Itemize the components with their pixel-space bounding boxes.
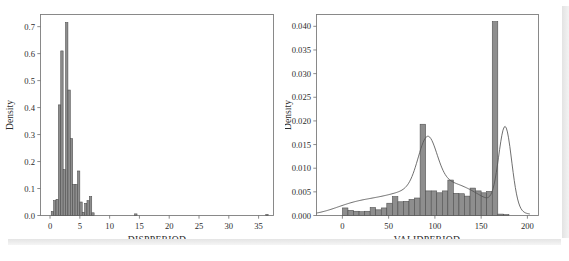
histogram-bar bbox=[431, 191, 437, 216]
y-tick-label: 0.035 bbox=[292, 45, 311, 55]
y-tick-label: 0.020 bbox=[292, 116, 311, 126]
histogram-bar bbox=[82, 212, 84, 215]
histogram-bar bbox=[453, 193, 459, 215]
histogram-bar bbox=[387, 203, 393, 215]
histogram-bar bbox=[70, 139, 72, 216]
chart-panel-dispperiod: 0.00.10.20.30.40.50.60.7 05101520253035 … bbox=[0, 0, 284, 261]
histogram-bar bbox=[54, 201, 56, 216]
y-tick-label: 0.000 bbox=[292, 211, 311, 221]
histogram-bar bbox=[381, 208, 387, 216]
histogram-bar bbox=[442, 191, 448, 216]
y-tick-label: 0.005 bbox=[292, 187, 311, 197]
histogram-bar bbox=[420, 124, 426, 215]
y-tick-label: 0.4 bbox=[24, 103, 35, 113]
histogram-bar bbox=[415, 198, 421, 215]
histogram-bar bbox=[66, 23, 68, 216]
histogram-bar bbox=[56, 199, 58, 215]
y-axis-title-left: Density bbox=[4, 100, 15, 130]
histogram-bar bbox=[51, 211, 53, 215]
histogram-bar bbox=[63, 170, 65, 216]
x-tick-label: 20 bbox=[165, 221, 174, 231]
histogram-bar bbox=[465, 196, 471, 215]
histogram-bar bbox=[68, 90, 70, 215]
histogram-bar bbox=[342, 208, 348, 216]
histogram-bar bbox=[448, 180, 454, 215]
x-axis-tick-labels-right: 050100150200 bbox=[340, 221, 534, 231]
histogram-bar bbox=[73, 184, 75, 215]
dispperiod-plot: 0.00.10.20.30.40.50.60.7 05101520253035 … bbox=[0, 0, 284, 261]
histogram-bars-dispperiod bbox=[51, 23, 268, 216]
y-tick-label: 0.1 bbox=[24, 184, 35, 194]
histogram-bar bbox=[266, 214, 268, 215]
x-axis-ticks-left bbox=[50, 216, 259, 219]
x-tick-label: 200 bbox=[521, 221, 534, 231]
x-tick-label: 100 bbox=[428, 221, 441, 231]
x-tick-label: 0 bbox=[340, 221, 344, 231]
histogram-bar bbox=[403, 201, 409, 215]
y-tick-label: 0.5 bbox=[24, 76, 35, 86]
x-axis-ticks-right bbox=[342, 216, 527, 219]
y-axis-ticks-right bbox=[313, 26, 316, 215]
x-tick-label: 35 bbox=[254, 221, 263, 231]
validperiod-plot: 0.0000.0050.0100.0150.0200.0250.0300.035… bbox=[285, 0, 569, 261]
y-tick-label: 0.2 bbox=[24, 157, 35, 167]
histogram-bar bbox=[437, 193, 443, 216]
y-axis-tick-labels-right: 0.0000.0050.0100.0150.0200.0250.0300.035… bbox=[292, 21, 311, 220]
y-axis-tick-labels-left: 0.00.10.20.30.40.50.60.7 bbox=[24, 22, 35, 221]
y-tick-label: 0.015 bbox=[292, 140, 311, 150]
histogram-bar bbox=[492, 22, 498, 216]
x-tick-label: 5 bbox=[78, 221, 82, 231]
x-tick-label: 30 bbox=[225, 221, 234, 231]
figure-right-shadow bbox=[562, 6, 569, 238]
histogram-bar bbox=[376, 210, 382, 216]
y-tick-label: 0.040 bbox=[292, 21, 311, 31]
histogram-bar bbox=[354, 211, 360, 215]
x-axis-tick-labels-left: 05101520253035 bbox=[48, 221, 263, 231]
histogram-bars-validperiod bbox=[342, 22, 509, 216]
x-tick-label: 25 bbox=[195, 221, 204, 231]
histogram-bar bbox=[61, 51, 63, 216]
histogram-bar bbox=[348, 210, 354, 215]
y-tick-label: 0.6 bbox=[24, 49, 35, 59]
figure-container: 0.00.10.20.30.40.50.60.7 05101520253035 … bbox=[0, 0, 569, 261]
y-tick-label: 0.7 bbox=[24, 22, 35, 32]
histogram-bar bbox=[85, 203, 87, 215]
histogram-bar bbox=[80, 202, 82, 215]
histogram-bar bbox=[75, 184, 77, 215]
y-tick-label: 0.0 bbox=[24, 211, 35, 221]
histogram-bar bbox=[77, 171, 79, 216]
y-axis-title-right: Density bbox=[285, 100, 293, 130]
histogram-bar bbox=[398, 202, 404, 216]
y-tick-label: 0.030 bbox=[292, 69, 311, 79]
y-tick-label: 0.3 bbox=[24, 130, 35, 140]
x-tick-label: 15 bbox=[135, 221, 144, 231]
histogram-bar bbox=[487, 191, 493, 215]
histogram-bar bbox=[359, 212, 365, 216]
histogram-bar bbox=[87, 201, 89, 216]
histogram-bar bbox=[392, 197, 398, 216]
x-tick-label: 0 bbox=[48, 221, 52, 231]
histogram-bar bbox=[58, 105, 60, 216]
histogram-bar bbox=[498, 214, 504, 215]
y-tick-label: 0.010 bbox=[292, 163, 311, 173]
plot-frame bbox=[317, 15, 539, 216]
histogram-bar bbox=[89, 197, 91, 216]
histogram-bar bbox=[459, 194, 465, 216]
validperiod-axes bbox=[317, 15, 539, 216]
chart-panel-validperiod: 0.0000.0050.0100.0150.0200.0250.0300.035… bbox=[285, 0, 569, 261]
histogram-bar bbox=[92, 213, 94, 216]
histogram-bar bbox=[503, 215, 509, 216]
x-tick-label: 50 bbox=[384, 221, 393, 231]
histogram-bar bbox=[409, 199, 415, 215]
histogram-bar bbox=[135, 214, 137, 216]
figure-bottom-shadow bbox=[8, 239, 561, 245]
histogram-bar bbox=[365, 211, 371, 215]
x-tick-label: 10 bbox=[105, 221, 114, 231]
x-tick-label: 150 bbox=[475, 221, 488, 231]
y-tick-label: 0.025 bbox=[292, 92, 311, 102]
histogram-bar bbox=[426, 191, 432, 216]
histogram-bar bbox=[370, 207, 376, 215]
y-axis-ticks-left bbox=[37, 27, 40, 216]
